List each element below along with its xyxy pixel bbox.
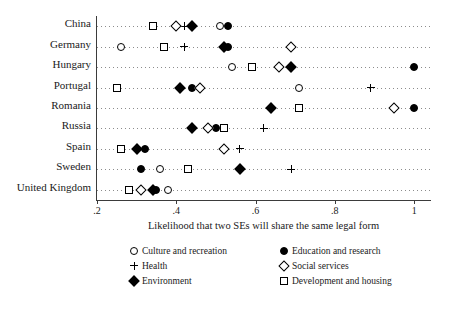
- marker-diamond-filled: [175, 82, 186, 93]
- scatter-chart-figure: ChinaGermanyHungaryPortugalRomaniaRussia…: [0, 0, 464, 309]
- marker-diamond-filled: [234, 164, 245, 175]
- marker-circle-open: [130, 247, 138, 255]
- marker-square-open: [149, 22, 157, 30]
- category-label: Hungary: [53, 59, 92, 70]
- category-label: Spain: [66, 141, 91, 152]
- gridline: [97, 108, 430, 109]
- x-tick: [256, 200, 257, 204]
- marker-circle-open: [216, 22, 224, 30]
- legend-marker-plus-icon: [128, 260, 142, 272]
- marker-diamond-open: [389, 102, 400, 113]
- legend-label: Environment: [142, 275, 192, 287]
- legend-marker-diamond-filled-icon: [128, 275, 142, 287]
- marker-diamond-filled: [266, 102, 277, 113]
- marker-diamond-filled: [286, 61, 297, 72]
- marker-square-open: [160, 43, 168, 51]
- category-label: Russia: [62, 120, 91, 131]
- marker-diamond-open: [135, 184, 146, 195]
- legend-marker-diamond-open-icon: [278, 260, 292, 272]
- category-label: Germany: [50, 39, 91, 50]
- marker-plus: [180, 43, 188, 51]
- gridline: [97, 169, 430, 170]
- marker-circle-open: [295, 84, 303, 92]
- marker-plus: [260, 124, 268, 132]
- x-tick-label: .6: [252, 205, 260, 216]
- legend-label: Social services: [292, 260, 349, 272]
- legend-label: Education and research: [292, 245, 381, 257]
- gridline: [97, 67, 430, 68]
- x-axis-line: [96, 200, 431, 201]
- x-tick: [97, 200, 98, 204]
- marker-circle-filled: [137, 165, 145, 173]
- marker-circle-filled: [410, 63, 418, 71]
- category-label: Portugal: [54, 80, 91, 91]
- legend-item: Culture and recreation: [128, 245, 278, 257]
- category-label: Romania: [51, 100, 91, 111]
- marker-square-open: [295, 104, 303, 112]
- legend-item: Environment: [128, 275, 278, 287]
- marker-circle-filled: [224, 22, 232, 30]
- marker-plus: [287, 165, 295, 173]
- marker-diamond-filled: [186, 123, 197, 134]
- legend-row: Culture and recreationEducation and rese…: [128, 243, 428, 258]
- x-tick: [335, 200, 336, 204]
- x-tick-label: .2: [93, 205, 101, 216]
- legend-item: Education and research: [278, 245, 428, 257]
- marker-square-open: [184, 165, 192, 173]
- marker-diamond-filled: [128, 275, 139, 286]
- x-axis-title: Likelihood that two SEs will share the s…: [97, 220, 430, 232]
- marker-square-open: [117, 145, 125, 153]
- x-tick-label: .8: [331, 205, 339, 216]
- legend-row: EnvironmentDevelopment and housing: [128, 273, 428, 288]
- marker-circle-filled: [410, 104, 418, 112]
- plot-area: ChinaGermanyHungaryPortugalRomaniaRussia…: [97, 16, 430, 200]
- gridline: [97, 26, 430, 27]
- marker-plus: [367, 84, 375, 92]
- legend-item: Development and housing: [278, 275, 428, 287]
- marker-plus: [236, 145, 244, 153]
- x-tick-label: .4: [173, 205, 181, 216]
- marker-square-open: [248, 63, 256, 71]
- legend-marker-square-open-icon: [278, 275, 292, 287]
- legend-label: Development and housing: [292, 275, 392, 287]
- marker-diamond-open: [286, 41, 297, 52]
- marker-circle-open: [164, 186, 172, 194]
- category-label: Sweden: [56, 161, 91, 172]
- x-tick: [414, 200, 415, 204]
- legend-label: Health: [142, 260, 167, 272]
- marker-circle-open: [156, 165, 164, 173]
- marker-diamond-open: [278, 260, 289, 271]
- marker-square-open: [125, 186, 133, 194]
- marker-square-open: [220, 124, 228, 132]
- marker-diamond-filled: [131, 143, 142, 154]
- category-label: China: [65, 18, 91, 29]
- marker-square-open: [280, 277, 288, 285]
- marker-diamond-open: [194, 82, 205, 93]
- legend-marker-circle-filled-icon: [278, 245, 292, 257]
- legend-item: Social services: [278, 260, 428, 272]
- marker-circle-filled: [280, 247, 288, 255]
- x-tick-label: 1: [412, 205, 417, 216]
- marker-plus: [130, 262, 138, 270]
- legend-item: Health: [128, 260, 278, 272]
- gridline: [97, 88, 430, 89]
- legend-marker-circle-open-icon: [128, 245, 142, 257]
- legend-label: Culture and recreation: [142, 245, 227, 257]
- category-label: United Kingdom: [17, 182, 91, 193]
- marker-circle-open: [117, 43, 125, 51]
- marker-diamond-open: [218, 143, 229, 154]
- marker-diamond-open: [274, 61, 285, 72]
- legend-row: HealthSocial services: [128, 258, 428, 273]
- marker-diamond-open: [202, 123, 213, 134]
- chart-legend: Culture and recreationEducation and rese…: [128, 243, 428, 288]
- marker-circle-open: [228, 63, 236, 71]
- gridline: [97, 47, 430, 48]
- x-tick: [176, 200, 177, 204]
- marker-square-open: [113, 84, 121, 92]
